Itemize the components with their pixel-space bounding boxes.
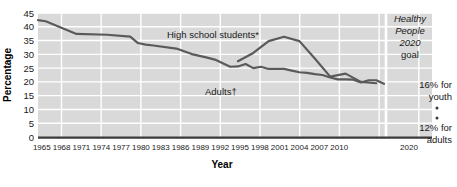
series-label-high-school: High school students* bbox=[167, 29, 259, 40]
x-axis-title: Year bbox=[211, 159, 232, 170]
x-tick-label: 1992 bbox=[211, 143, 229, 152]
goal-title-line-4: goal bbox=[401, 49, 419, 60]
y-tick-label: 40 bbox=[23, 21, 34, 32]
x-tick-label: 2010 bbox=[330, 143, 348, 152]
adults-goal-line-2: adults bbox=[427, 134, 453, 145]
x-tick-label: 2007 bbox=[310, 143, 328, 152]
smoking-prevalence-line-chart: 45 40 35 30 25 20 15 10 5 0 Percentage 1… bbox=[0, 0, 457, 187]
y-tick-label: 15 bbox=[23, 90, 34, 101]
y-tick-label: 10 bbox=[23, 104, 34, 115]
adults-goal-line-1: 12% for bbox=[419, 122, 452, 133]
y-tick-label: 20 bbox=[23, 76, 34, 87]
x-tick-label: 1974 bbox=[92, 143, 110, 152]
x-tick-label: 1971 bbox=[73, 143, 91, 152]
x-tick-label: 1989 bbox=[192, 143, 210, 152]
y-tick-label: 0 bbox=[29, 132, 34, 143]
x-tick-label: 1965 bbox=[33, 143, 51, 152]
youth-goal-line-2: youth bbox=[429, 91, 452, 102]
x-tick-label: 2004 bbox=[291, 143, 309, 152]
x-tick-labels: 1965 1968 1971 1974 1977 1980 1983 1986 … bbox=[33, 143, 419, 152]
x-tick-label: 1983 bbox=[152, 143, 170, 152]
series-label-adults: Adults† bbox=[205, 86, 237, 97]
y-tick-label: 45 bbox=[23, 8, 34, 19]
y-tick-label: 25 bbox=[23, 63, 34, 74]
y-tick-label: 5 bbox=[29, 118, 34, 129]
x-tick-label: 2020 bbox=[400, 143, 418, 152]
goal-title-line-2: People bbox=[395, 25, 425, 36]
x-tick-label: 1995 bbox=[231, 143, 249, 152]
y-tick-labels: 45 40 35 30 25 20 15 10 5 0 bbox=[23, 8, 34, 143]
x-tick-label: 1977 bbox=[112, 143, 130, 152]
y-tick-label: 35 bbox=[23, 35, 34, 46]
x-tick-label: 1980 bbox=[132, 143, 150, 152]
goal-separator-dot bbox=[436, 107, 439, 110]
goal-title-line-3: 2020 bbox=[398, 37, 421, 48]
youth-goal-line-1: 16% for bbox=[419, 79, 452, 90]
x-tick-label: 1998 bbox=[251, 143, 269, 152]
goal-title-line-1: Healthy bbox=[394, 13, 427, 24]
x-tick-label: 2001 bbox=[271, 143, 289, 152]
x-tick-label: 1968 bbox=[53, 143, 71, 152]
y-axis-title: Percentage bbox=[2, 48, 13, 102]
goal-separator-dot bbox=[436, 117, 439, 120]
x-tick-label: 1986 bbox=[172, 143, 190, 152]
y-tick-label: 30 bbox=[23, 49, 34, 60]
